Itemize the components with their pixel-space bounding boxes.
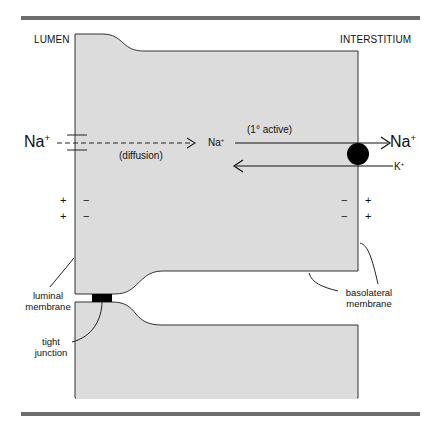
na-k-pump [347, 143, 369, 165]
ion-symbol: Na [24, 133, 44, 150]
na-ion-cytosol: Na+ [208, 138, 224, 148]
charge-cell-basolateral-1: − [341, 195, 347, 206]
charge-lumen-1: + [60, 195, 66, 206]
basolateral-leader-1 [309, 273, 338, 291]
charge-interstitium-2: + [365, 211, 371, 222]
upper-epithelial-cell [75, 34, 358, 294]
interstitium-label: INTERSTITIUM [340, 35, 411, 45]
basolateral-leader-2 [360, 243, 378, 284]
tight-junction [92, 294, 112, 302]
charge-cell-luminal-1: − [83, 195, 89, 206]
ion-symbol: K [394, 161, 401, 172]
bottom-rule [21, 412, 420, 416]
lower-epithelial-cell [75, 302, 358, 398]
ion-charge: + [410, 132, 416, 143]
na-ion-interstitium: Na+ [390, 134, 416, 150]
ion-charge: + [401, 161, 405, 167]
ion-symbol: Na [390, 133, 410, 150]
label-line-2: membrane [340, 299, 398, 309]
lumen-label: LUMEN [34, 35, 70, 45]
charge-interstitium-1: + [365, 195, 371, 206]
label-line-1: basolateral [340, 288, 398, 298]
luminal-membrane-label: luminal membrane [23, 291, 73, 311]
k-ion-interstitium: K+ [394, 162, 404, 172]
ion-charge: + [221, 137, 225, 143]
charge-cell-basolateral-2: − [341, 211, 347, 222]
luminal-membrane-leader [50, 258, 74, 287]
label-line-2: membrane [23, 302, 73, 312]
label-line-1: luminal [23, 291, 73, 301]
charge-cell-luminal-2: − [83, 211, 89, 222]
ion-charge: + [44, 132, 50, 143]
diffusion-label: (diffusion) [119, 151, 163, 161]
top-rule [21, 16, 420, 20]
tight-junction-label: tight junction [28, 337, 74, 357]
na-ion-lumen: Na+ [24, 134, 50, 150]
diagram-canvas [0, 0, 443, 429]
label-line-1: tight [28, 337, 74, 347]
ion-symbol: Na [208, 137, 221, 148]
label-line-2: junction [28, 348, 74, 358]
active-transport-label: (1° active) [247, 125, 292, 135]
charge-lumen-2: + [60, 211, 66, 222]
basolateral-membrane-label: basolateral membrane [340, 288, 398, 308]
